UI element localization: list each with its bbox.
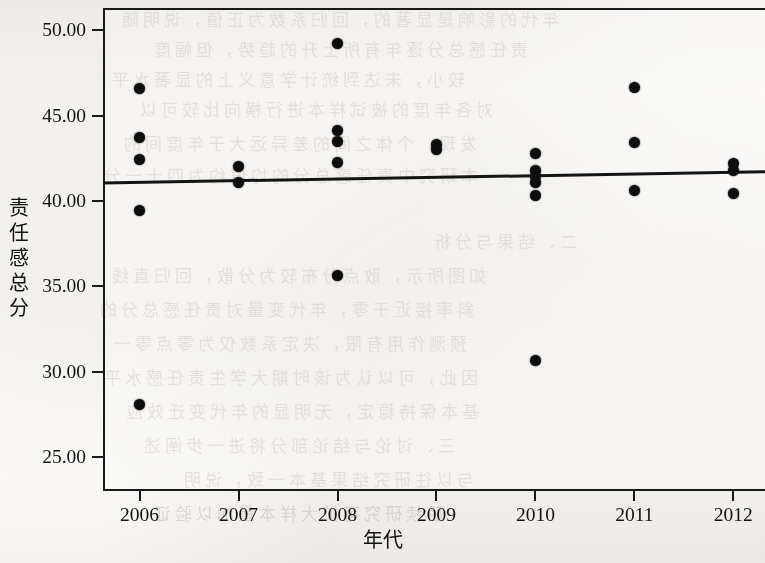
y-tick-mark: [92, 285, 103, 287]
x-axis-title: 年代: [0, 530, 765, 550]
y-axis-title: 责任感总分: [6, 196, 32, 321]
y-axis-title-char: 感: [6, 246, 32, 271]
x-tick-label: 2011: [615, 505, 653, 525]
y-axis-title-char: 总: [6, 271, 32, 296]
x-tick-label: 2009: [417, 505, 456, 525]
x-tick-mark: [337, 491, 339, 501]
y-tick-label: 50.00: [42, 20, 86, 40]
plot-frame: [103, 8, 765, 491]
y-tick-label: 25.00: [42, 447, 86, 467]
y-tick-label: 45.00: [42, 106, 86, 126]
y-tick-label: 30.00: [42, 362, 86, 382]
x-tick-label: 2006: [120, 505, 159, 525]
x-tick-mark: [435, 491, 437, 501]
x-tick-label: 2007: [219, 505, 258, 525]
x-tick-mark: [238, 491, 240, 501]
x-tick-label: 2012: [714, 505, 753, 525]
y-tick-mark: [92, 200, 103, 202]
y-axis-title-char: 任: [6, 221, 32, 246]
y-tick-mark: [92, 456, 103, 458]
x-tick-mark: [732, 491, 734, 501]
x-tick-mark: [633, 491, 635, 501]
y-tick-mark: [92, 29, 103, 31]
y-tick-label: 40.00: [42, 191, 86, 211]
x-tick-mark: [534, 491, 536, 501]
x-tick-label: 2008: [318, 505, 357, 525]
bleed-through-line: 后续研究可扩大样本量加以验证: [150, 500, 444, 525]
x-tick-label: 2010: [516, 505, 555, 525]
y-axis-title-char: 分: [6, 296, 32, 321]
x-tick-mark: [139, 491, 141, 501]
y-axis-title-char: 责: [6, 196, 32, 221]
y-tick-mark: [92, 371, 103, 373]
y-tick-label: 35.00: [42, 276, 86, 296]
figure-page: 年代的影响是显著的，回归系数为正值，说明随责任感总分逐年有所上升的趋势，但幅度较…: [0, 0, 765, 563]
y-tick-mark: [92, 115, 103, 117]
